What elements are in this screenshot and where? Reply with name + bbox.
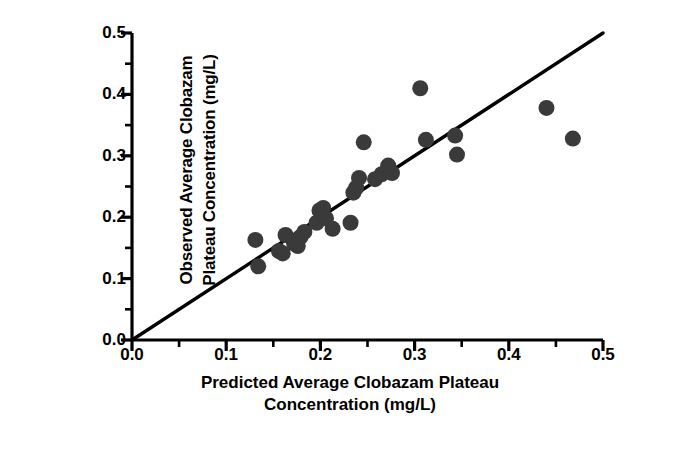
data-point — [351, 170, 367, 186]
data-point — [418, 132, 434, 148]
scatter-plot-figure: Observed Average Clobazam Plateau Concen… — [0, 0, 677, 465]
identity-line — [132, 33, 603, 340]
plot-area — [0, 0, 677, 465]
data-point — [343, 215, 359, 231]
data-point — [449, 147, 465, 163]
data-point — [250, 258, 266, 274]
figure-caption — [48, 452, 648, 464]
data-points — [247, 80, 580, 274]
data-point — [412, 80, 428, 96]
data-point — [538, 100, 554, 116]
data-point — [384, 165, 400, 181]
data-point — [247, 232, 263, 248]
data-point — [325, 221, 341, 237]
identity-line-segment — [132, 33, 603, 340]
data-point — [356, 134, 372, 150]
data-point — [565, 131, 581, 147]
data-point — [447, 128, 463, 144]
